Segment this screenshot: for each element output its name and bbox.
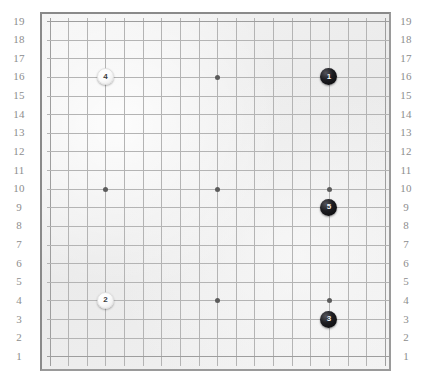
grid-line-horizontal <box>47 263 390 264</box>
coordinate-label-row-4: 4 <box>389 295 421 306</box>
coordinate-label-row-5: 5 <box>2 276 36 287</box>
coordinate-label-row-2: 2 <box>389 332 421 343</box>
star-point <box>215 298 220 303</box>
grid-line-vertical <box>143 18 144 366</box>
star-point <box>103 187 108 192</box>
grid-line-vertical <box>50 18 51 366</box>
grid-line-horizontal <box>47 151 390 152</box>
grid-line-vertical <box>124 18 125 366</box>
coordinate-label-row-6: 6 <box>389 258 421 269</box>
coordinate-label-row-19: 19 <box>389 16 421 27</box>
grid-line-horizontal <box>47 170 390 171</box>
coordinate-label-row-19: 19 <box>2 16 36 27</box>
coordinate-label-row-7: 7 <box>389 239 421 250</box>
coordinate-label-row-5: 5 <box>389 276 421 287</box>
stone-move-number: 2 <box>103 296 107 304</box>
coordinate-label-row-7: 7 <box>2 239 36 250</box>
grid-line-vertical <box>254 18 255 366</box>
grid-line-vertical <box>217 18 218 366</box>
coordinate-label-row-11: 11 <box>2 165 36 176</box>
stone-white-move-4[interactable]: 4 <box>97 68 114 85</box>
coordinate-label-row-13: 13 <box>2 127 36 138</box>
coordinate-labels-right: 19181716151413121110987654321 <box>389 0 421 391</box>
grid-line-horizontal <box>47 207 390 208</box>
coordinate-label-row-12: 12 <box>389 146 421 157</box>
coordinate-label-row-12: 12 <box>2 146 36 157</box>
coordinate-label-row-9: 9 <box>2 202 36 213</box>
go-board-viewer: 19181716151413121110987654321 12345 1918… <box>0 0 421 391</box>
grid-line-vertical <box>180 18 181 366</box>
star-point <box>327 298 332 303</box>
coordinate-label-row-1: 1 <box>2 351 36 362</box>
grid-line-horizontal <box>47 96 390 97</box>
grid-line-vertical <box>310 18 311 366</box>
grid-line-horizontal <box>47 58 390 59</box>
coordinate-label-row-18: 18 <box>389 34 421 45</box>
grid-line-horizontal <box>47 133 390 134</box>
grid-line-vertical <box>199 18 200 366</box>
coordinate-label-row-10: 10 <box>389 183 421 194</box>
stone-move-number: 4 <box>103 73 107 81</box>
stone-white-move-2[interactable]: 2 <box>97 292 114 309</box>
stone-black-move-3[interactable]: 3 <box>320 311 337 328</box>
grid-line-vertical <box>366 18 367 366</box>
stone-move-number: 3 <box>327 315 331 323</box>
grid-line-vertical <box>273 18 274 366</box>
coordinate-label-row-9: 9 <box>389 202 421 213</box>
coordinate-label-row-17: 17 <box>2 53 36 64</box>
stone-move-number: 1 <box>327 73 331 81</box>
coordinate-label-row-18: 18 <box>2 34 36 45</box>
grid-line-vertical <box>68 18 69 366</box>
go-board[interactable]: 12345 <box>40 12 391 371</box>
coordinate-label-row-3: 3 <box>389 314 421 325</box>
coordinate-label-row-13: 13 <box>389 127 421 138</box>
star-point <box>215 75 220 80</box>
coordinate-label-row-4: 4 <box>2 295 36 306</box>
grid-line-vertical <box>348 18 349 366</box>
coordinate-label-row-16: 16 <box>389 71 421 82</box>
coordinate-label-row-2: 2 <box>2 332 36 343</box>
coordinate-label-row-15: 15 <box>2 90 36 101</box>
star-point <box>327 187 332 192</box>
coordinate-label-row-14: 14 <box>2 109 36 120</box>
grid-line-horizontal <box>47 282 390 283</box>
stone-move-number: 5 <box>327 203 331 211</box>
stone-black-move-1[interactable]: 1 <box>320 68 337 85</box>
coordinate-label-row-8: 8 <box>389 220 421 231</box>
coordinate-label-row-10: 10 <box>2 183 36 194</box>
star-point <box>215 187 220 192</box>
board-grid: 12345 <box>42 14 389 369</box>
grid-line-vertical <box>385 18 386 366</box>
coordinate-label-row-17: 17 <box>389 53 421 64</box>
grid-line-vertical <box>292 18 293 366</box>
grid-line-horizontal <box>47 356 390 357</box>
coordinate-label-row-3: 3 <box>2 314 36 325</box>
coordinate-label-row-1: 1 <box>389 351 421 362</box>
coordinate-label-row-8: 8 <box>2 220 36 231</box>
coordinate-label-row-16: 16 <box>2 71 36 82</box>
grid-line-vertical <box>236 18 237 366</box>
grid-line-horizontal <box>47 319 390 320</box>
coordinate-label-row-14: 14 <box>389 109 421 120</box>
grid-line-horizontal <box>47 245 390 246</box>
coordinate-label-row-11: 11 <box>389 165 421 176</box>
stone-black-move-5[interactable]: 5 <box>320 199 337 216</box>
grid-line-vertical <box>161 18 162 366</box>
coordinate-label-row-15: 15 <box>389 90 421 101</box>
grid-line-vertical <box>87 18 88 366</box>
grid-line-horizontal <box>47 21 390 22</box>
grid-line-horizontal <box>47 40 390 41</box>
grid-line-horizontal <box>47 226 390 227</box>
grid-line-horizontal <box>47 338 390 339</box>
coordinate-label-row-6: 6 <box>2 258 36 269</box>
coordinate-labels-left: 19181716151413121110987654321 <box>2 0 36 391</box>
grid-line-horizontal <box>47 114 390 115</box>
